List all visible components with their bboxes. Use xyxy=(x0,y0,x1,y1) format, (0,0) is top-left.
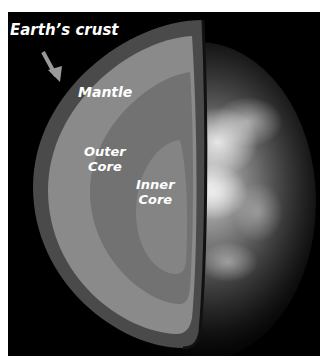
crust-label: Earth’s crust xyxy=(10,22,119,39)
outer-core-label-line1: Outer xyxy=(84,145,126,160)
mantle-label: Mantle xyxy=(78,84,132,100)
inner-core-label-line2: Core xyxy=(136,193,175,208)
outer-core-label: Outer Core xyxy=(84,145,126,175)
crust-arrow-icon xyxy=(43,52,62,82)
inner-core-label-line1: Inner xyxy=(136,178,175,193)
inner-core-label: Inner Core xyxy=(136,178,175,208)
earth-diagram: Earth’s crust Mantle Outer Core Inner Co… xyxy=(8,12,320,356)
outer-core-label-line2: Core xyxy=(84,160,126,175)
